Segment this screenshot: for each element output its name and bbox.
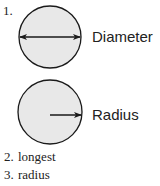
item-number-2: 2. — [4, 149, 18, 165]
radius-label: Radius — [92, 106, 139, 123]
answer-3: 3.radius — [4, 167, 50, 183]
answer-2: 2.longest — [4, 149, 56, 165]
answer-2-text: longest — [18, 149, 56, 164]
answer-3-text: radius — [18, 167, 50, 182]
diameter-label: Diameter — [92, 28, 153, 45]
item-number-3: 3. — [4, 167, 18, 183]
radius-figure — [18, 80, 82, 144]
circle-figures — [0, 0, 160, 150]
radius-circle — [18, 80, 82, 144]
diameter-figure — [19, 6, 81, 68]
